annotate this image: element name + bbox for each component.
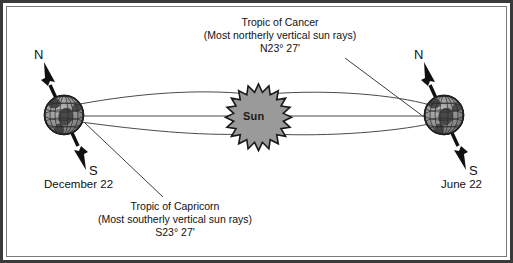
right-globe-date-label: June 22 [441,178,482,190]
tropic-of-capricorn-line1: Tropic of Capricorn [55,200,295,213]
tropic-of-cancer-line1: Tropic of Cancer [160,16,400,29]
tropic-of-capricorn-line3: S23° 27' [55,226,295,239]
left-globe-north-label: N [34,47,43,62]
right-globe-south-label: S [469,163,478,178]
sun-label: Sun [243,110,264,122]
right-globe-north-arrow-icon [421,62,435,86]
left-globe-south-arrow-icon [74,146,88,170]
tropic-of-capricorn-line2: (Most southerly vertical sun rays) [55,213,295,226]
left-globe-north-arrow-icon [41,62,55,86]
left-globe-date-label: December 22 [44,178,113,190]
tropic-of-cancer-line3: N23° 27' [160,42,400,55]
sun-ray-upper-left [80,92,248,104]
left-globe-group [41,62,88,170]
tropic-of-cancer-label: Tropic of Cancer (Most northerly vertica… [160,16,400,54]
right-globe-group [421,62,468,170]
solstice-diagram-figure: Tropic of Cancer (Most northerly vertica… [0,0,513,263]
sun-ray-lower-left [81,122,247,134]
right-globe-south-arrow-icon [454,146,468,170]
tropic-of-cancer-line2: (Most northerly vertical sun rays) [160,29,400,42]
leader-line-cancer [345,58,424,117]
left-globe-south-label: S [89,163,98,178]
tropic-of-capricorn-label: Tropic of Capricorn (Most southerly vert… [55,200,295,238]
right-globe-north-label: N [414,47,423,62]
sun-ray-lower-right [270,124,429,135]
